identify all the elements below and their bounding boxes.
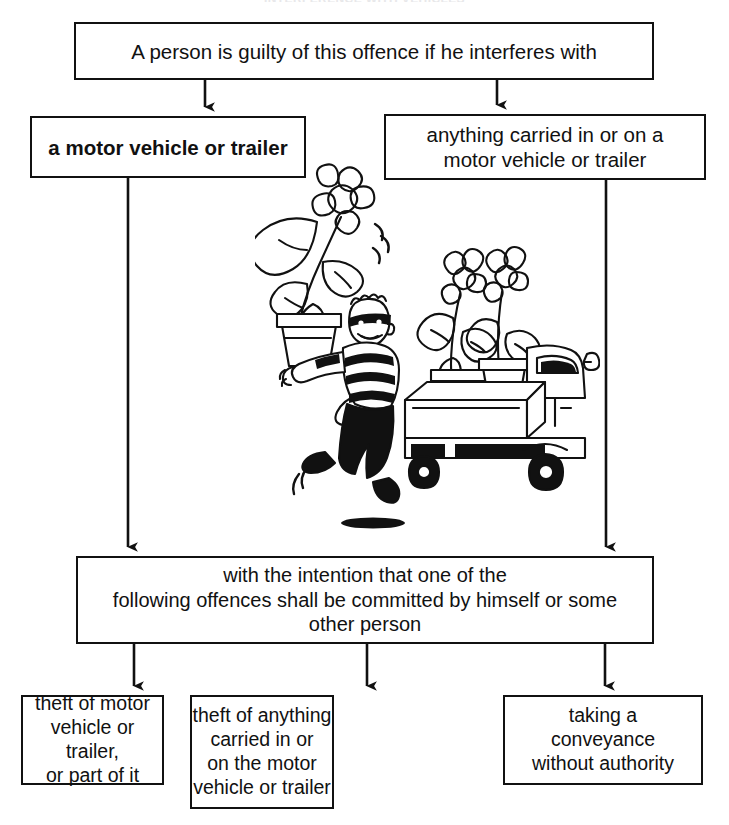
flow-box-motor-vehicle: a motor vehicle or trailer (30, 116, 306, 178)
clipped-page-header: INTERFERENCE WITH VEHICLES (0, 0, 729, 2)
large-flower-icon (312, 164, 374, 233)
thief-carrying-plant-and-pickup-truck-illustration (255, 162, 600, 552)
flow-box-carried-goods: anything carried in or on a motor vehicl… (384, 114, 706, 180)
pickup-truck-icon (405, 345, 599, 490)
truck-wheel (529, 454, 563, 490)
flow-box-intention: with the intention that one of the follo… (76, 556, 654, 644)
flow-box-theft-of-contents: theft of anything carried in or on the m… (190, 695, 334, 809)
ground-shadow (341, 518, 405, 529)
flow-box-taking-conveyance: taking a conveyance without authority (503, 695, 703, 785)
flow-box-premise: A person is guilty of this offence if he… (74, 22, 654, 80)
truck-wheel (409, 456, 439, 488)
flow-box-theft-of-vehicle: theft of motor vehicle or trailer, or pa… (21, 695, 164, 785)
motion-lines-icon (293, 468, 307, 494)
flowchart-canvas: INTERFERENCE WITH VEHICLES A person is g… (0, 0, 729, 825)
motion-lines-icon (373, 224, 389, 263)
